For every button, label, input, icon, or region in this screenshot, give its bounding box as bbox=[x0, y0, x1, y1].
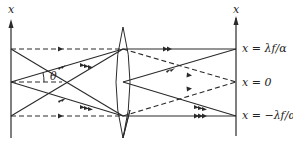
single-arrow-icon bbox=[187, 87, 193, 92]
ray-direction-markers bbox=[58, 47, 207, 119]
single-arrow-icon bbox=[187, 73, 193, 78]
right-axis bbox=[234, 16, 239, 136]
arrow-up-icon bbox=[234, 16, 239, 25]
solid-rays-right bbox=[123, 49, 236, 116]
dashed-rays-right bbox=[123, 49, 236, 116]
double-arrow-icon bbox=[58, 98, 66, 103]
left-axis-label: x bbox=[8, 3, 15, 16]
angle-theta-label: θ bbox=[50, 70, 57, 83]
arrow-up-icon bbox=[9, 19, 14, 28]
plane-label-top: x = λf/α bbox=[242, 42, 287, 55]
double-arrow-icon bbox=[163, 47, 172, 52]
triple-arrow-icon bbox=[194, 114, 207, 119]
angle-arc bbox=[43, 73, 44, 82]
single-arrow-icon bbox=[58, 47, 63, 52]
right-axis-label: x bbox=[233, 3, 240, 16]
fourier-optics-diagram: x x θ x = λf/α x = 0 x = −λf/α bbox=[0, 0, 293, 143]
left-axis bbox=[9, 19, 14, 138]
plane-label-center: x = 0 bbox=[242, 76, 271, 89]
single-arrow-icon bbox=[58, 114, 63, 119]
plane-label-bottom: x = −λf/α bbox=[242, 109, 293, 122]
triple-arrow-icon bbox=[194, 105, 207, 111]
